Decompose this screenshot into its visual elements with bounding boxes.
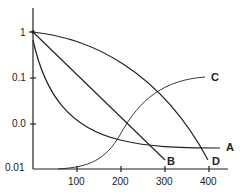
curve-labels: A B C D [167, 71, 234, 167]
curve-d [33, 32, 208, 160]
y-tick-label: 0.0 [12, 118, 26, 129]
curve-label-c: C [211, 71, 219, 83]
y-tick-labels: 1 0.1 0.0 0.01 [5, 27, 26, 173]
y-tick-label: 0.1 [12, 72, 26, 83]
y-tick-label: 1 [20, 27, 26, 38]
x-tick-label: 100 [68, 176, 85, 187]
curve-label-b: B [167, 155, 175, 167]
curve-a [33, 40, 220, 148]
x-tick-label: 400 [200, 176, 217, 187]
curves [33, 32, 220, 169]
x-tick-label: 300 [156, 176, 173, 187]
curve-b [33, 32, 165, 160]
x-tick-labels: 100 200 300 400 [68, 176, 217, 187]
y-tick-label: 0.01 [5, 162, 25, 173]
x-tick-label: 200 [112, 176, 129, 187]
curve-label-d: D [212, 155, 220, 167]
curve-label-a: A [226, 141, 234, 153]
chart: 1 0.1 0.0 0.01 100 200 300 400 A B C D [0, 0, 247, 196]
